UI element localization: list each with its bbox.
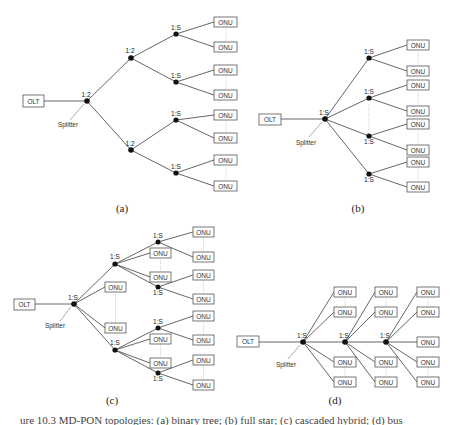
splitter-node bbox=[128, 55, 134, 61]
svg-text:ONU: ONU bbox=[218, 157, 233, 164]
svg-text:ONU: ONU bbox=[218, 44, 233, 51]
splitter-node bbox=[300, 339, 306, 345]
ratio-label: 1:S bbox=[171, 24, 181, 31]
svg-text:ONU: ONU bbox=[411, 147, 426, 154]
splitter-label: Splitter bbox=[296, 139, 317, 147]
splitter-node bbox=[71, 301, 77, 307]
ratio-label: 1:S bbox=[171, 163, 181, 170]
onu-group: ONU ONU ONU ONU ONU ONU ONU ONU ONU ONU … bbox=[105, 227, 214, 390]
splitter-label: Splitter bbox=[276, 361, 297, 369]
svg-text:ONU: ONU bbox=[196, 337, 211, 344]
olt-label: OLT bbox=[27, 98, 39, 105]
caption-c: (c) bbox=[106, 394, 119, 407]
subfigure-c: OLT 1:S 1:S 1:S 1:S 1:S bbox=[14, 227, 214, 407]
splitter-node bbox=[84, 98, 90, 104]
ratio-label: 1:S bbox=[319, 109, 329, 116]
ratio-label: 1:S bbox=[110, 253, 120, 260]
svg-text:ONU: ONU bbox=[196, 254, 211, 261]
svg-text:ONU: ONU bbox=[379, 359, 394, 366]
svg-text:ONU: ONU bbox=[218, 92, 233, 99]
ratio-label: 1:S bbox=[153, 289, 163, 296]
splitter-node bbox=[342, 339, 348, 345]
ratio-label: 1:S bbox=[364, 176, 374, 183]
splitter-node bbox=[173, 31, 178, 36]
ratio-label: 1:S bbox=[153, 318, 163, 325]
olt-label: OLT bbox=[242, 338, 254, 345]
onu-group: ONU ONU ONU ONU ONU ONU ONU ONU bbox=[214, 17, 237, 191]
svg-text:ONU: ONU bbox=[218, 19, 233, 26]
svg-text:ONU: ONU bbox=[218, 67, 233, 74]
pon-topology-diagram: OLT 1:2 1:2 1:2 1:S 1:S 1:S 1:S bbox=[0, 0, 456, 425]
svg-text:ONU: ONU bbox=[411, 159, 426, 166]
subfigure-d: OLT 1:S 1:S 1:S Splitter ONU ONU ONU ONU… bbox=[237, 287, 439, 407]
ratio-label: 1:2 bbox=[125, 47, 134, 54]
svg-text:ONU: ONU bbox=[379, 379, 394, 386]
figure-caption-clipped: ure 10.3 MD-PON topologies: (a) binary t… bbox=[20, 414, 450, 425]
ratio-label: 1:S bbox=[364, 88, 374, 95]
svg-text:ONU: ONU bbox=[108, 325, 123, 332]
svg-text:ONU: ONU bbox=[421, 339, 436, 346]
ratio-label: 1:2 bbox=[81, 91, 90, 98]
svg-text:ONU: ONU bbox=[338, 289, 353, 296]
ratio-label: 1:S bbox=[171, 110, 181, 117]
svg-text:ONU: ONU bbox=[196, 272, 211, 279]
splitter-label: Splitter bbox=[58, 121, 79, 129]
splitter-label: Splitter bbox=[45, 322, 66, 330]
splitter-node bbox=[156, 240, 161, 245]
svg-text:ONU: ONU bbox=[153, 336, 168, 343]
subfigure-a: OLT 1:2 1:2 1:2 1:S 1:S 1:S 1:S bbox=[23, 17, 237, 215]
caption-a: (a) bbox=[116, 202, 129, 215]
svg-text:ONU: ONU bbox=[196, 296, 211, 303]
svg-text:ONU: ONU bbox=[338, 379, 353, 386]
svg-text:ONU: ONU bbox=[196, 313, 211, 320]
subfigure-b: OLT 1:S 1:S 1:S 1:S 1:S Splitter ONU ONU… bbox=[259, 40, 429, 215]
ratio-label: 1:S bbox=[68, 294, 78, 301]
svg-text:ONU: ONU bbox=[338, 309, 353, 316]
svg-text:ONU: ONU bbox=[153, 274, 168, 281]
svg-text:ONU: ONU bbox=[218, 135, 233, 142]
ratio-label: 1:S bbox=[380, 332, 390, 339]
ratio-label: 1:S bbox=[171, 72, 181, 79]
splitter-node bbox=[156, 326, 161, 331]
splitter-node bbox=[128, 147, 134, 153]
svg-text:ONU: ONU bbox=[218, 183, 233, 190]
svg-text:ONU: ONU bbox=[379, 289, 394, 296]
splitter-node bbox=[173, 117, 178, 122]
ratio-label: 1:S bbox=[153, 232, 163, 239]
ratio-label: 1:S bbox=[110, 339, 120, 346]
caption-b: (b) bbox=[352, 202, 365, 215]
svg-text:ONU: ONU bbox=[153, 360, 168, 367]
splitter-node bbox=[383, 339, 389, 345]
splitter-node bbox=[322, 116, 328, 122]
svg-text:ONU: ONU bbox=[338, 359, 353, 366]
splitter-node bbox=[366, 95, 371, 100]
olt-label: OLT bbox=[18, 301, 30, 308]
svg-text:ONU: ONU bbox=[153, 250, 168, 257]
olt-label: OLT bbox=[264, 116, 276, 123]
svg-text:ONU: ONU bbox=[411, 108, 426, 115]
splitter-node bbox=[112, 261, 117, 266]
svg-text:ONU: ONU bbox=[411, 121, 426, 128]
ratio-label: 1:2 bbox=[125, 140, 134, 147]
caption-d: (d) bbox=[329, 394, 342, 407]
svg-text:ONU: ONU bbox=[421, 359, 436, 366]
ratio-label: 1:S bbox=[339, 332, 349, 339]
svg-text:ONU: ONU bbox=[108, 284, 123, 291]
svg-text:ONU: ONU bbox=[196, 382, 211, 389]
svg-text:ONU: ONU bbox=[421, 289, 436, 296]
svg-text:ONU: ONU bbox=[421, 309, 436, 316]
ratio-label: 1:S bbox=[153, 375, 163, 382]
ratio-label: 1:S bbox=[364, 48, 374, 55]
splitter-node bbox=[173, 170, 178, 175]
svg-text:ONU: ONU bbox=[379, 309, 394, 316]
splitter-node bbox=[112, 347, 117, 352]
svg-text:ONU: ONU bbox=[411, 42, 426, 49]
svg-text:ONU: ONU bbox=[218, 112, 233, 119]
svg-text:ONU: ONU bbox=[421, 379, 436, 386]
splitter-node bbox=[173, 79, 178, 84]
svg-text:ONU: ONU bbox=[411, 68, 426, 75]
svg-text:ONU: ONU bbox=[196, 229, 211, 236]
svg-text:ONU: ONU bbox=[411, 184, 426, 191]
ratio-label: 1:S bbox=[364, 138, 374, 145]
svg-text:ONU: ONU bbox=[411, 82, 426, 89]
